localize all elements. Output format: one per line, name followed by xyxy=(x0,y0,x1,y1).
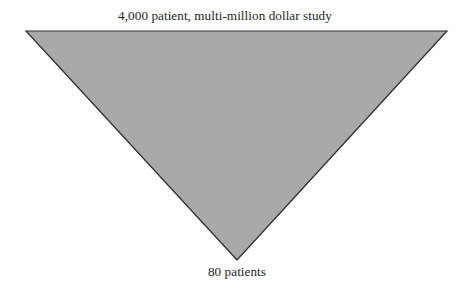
figure-canvas: 4,000 patient, multi-million dollar stud… xyxy=(0,0,472,292)
funnel-triangle-svg xyxy=(0,0,472,292)
funnel-bottom-caption: 80 patients xyxy=(0,264,472,280)
funnel-triangle-shape xyxy=(26,31,447,260)
